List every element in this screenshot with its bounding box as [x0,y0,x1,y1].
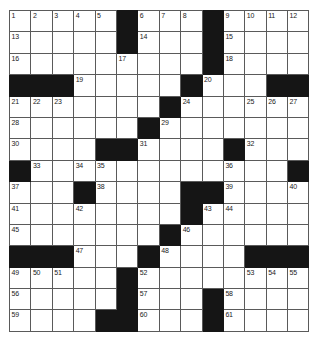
crossword-cell[interactable] [74,310,95,331]
crossword-cell[interactable] [52,310,73,331]
crossword-cell[interactable] [116,117,137,138]
crossword-cell[interactable] [223,117,244,138]
crossword-cell[interactable]: 13 [10,32,31,53]
crossword-cell[interactable] [52,32,73,53]
crossword-cell[interactable] [95,96,116,117]
crossword-cell[interactable] [116,160,137,181]
crossword-cell[interactable] [52,139,73,160]
crossword-cell[interactable]: 22 [31,96,52,117]
crossword-cell[interactable] [266,289,287,310]
crossword-cell[interactable]: 48 [159,246,180,267]
crossword-cell[interactable] [31,117,52,138]
crossword-cell[interactable] [245,289,266,310]
crossword-cell[interactable] [245,224,266,245]
crossword-cell[interactable]: 45 [10,224,31,245]
crossword-cell[interactable] [52,203,73,224]
crossword-cell[interactable]: 26 [266,96,287,117]
crossword-cell[interactable] [223,267,244,288]
crossword-cell[interactable] [181,53,202,74]
crossword-cell[interactable]: 24 [181,96,202,117]
crossword-cell[interactable] [116,224,137,245]
crossword-cell[interactable] [202,160,223,181]
crossword-cell[interactable]: 7 [159,11,180,32]
crossword-cell[interactable]: 10 [245,11,266,32]
crossword-cell[interactable] [31,139,52,160]
crossword-cell[interactable] [116,203,137,224]
crossword-cell[interactable]: 23 [52,96,73,117]
crossword-cell[interactable] [159,289,180,310]
crossword-cell[interactable]: 39 [223,182,244,203]
crossword-cell[interactable] [266,182,287,203]
crossword-cell[interactable]: 12 [288,11,309,32]
crossword-cell[interactable]: 38 [95,182,116,203]
crossword-cell[interactable] [74,289,95,310]
crossword-cell[interactable]: 8 [181,11,202,32]
crossword-cell[interactable] [116,75,137,96]
crossword-cell[interactable] [95,53,116,74]
crossword-cell[interactable] [245,75,266,96]
crossword-cell[interactable] [202,117,223,138]
crossword-cell[interactable]: 17 [116,53,137,74]
crossword-cell[interactable]: 15 [223,32,244,53]
crossword-cell[interactable]: 47 [74,246,95,267]
crossword-cell[interactable]: 34 [74,160,95,181]
crossword-cell[interactable] [159,75,180,96]
crossword-cell[interactable] [31,32,52,53]
crossword-grid[interactable]: 1234567891011121314151617181920212223242… [9,10,309,332]
crossword-cell[interactable]: 33 [31,160,52,181]
crossword-cell[interactable]: 29 [159,117,180,138]
crossword-cell[interactable]: 61 [223,310,244,331]
crossword-cell[interactable]: 18 [223,53,244,74]
crossword-cell[interactable] [181,310,202,331]
crossword-cell[interactable]: 2 [31,11,52,32]
crossword-cell[interactable]: 6 [138,11,159,32]
crossword-cell[interactable] [202,224,223,245]
crossword-cell[interactable] [138,203,159,224]
crossword-cell[interactable] [288,310,309,331]
crossword-cell[interactable] [159,160,180,181]
crossword-cell[interactable] [31,53,52,74]
crossword-cell[interactable]: 43 [202,203,223,224]
crossword-cell[interactable]: 50 [31,267,52,288]
crossword-cell[interactable] [95,289,116,310]
crossword-cell[interactable] [288,139,309,160]
crossword-cell[interactable] [95,246,116,267]
crossword-cell[interactable] [288,203,309,224]
crossword-cell[interactable] [116,182,137,203]
crossword-cell[interactable] [116,246,137,267]
crossword-cell[interactable] [266,160,287,181]
crossword-cell[interactable] [245,310,266,331]
crossword-cell[interactable] [288,289,309,310]
crossword-cell[interactable]: 37 [10,182,31,203]
crossword-cell[interactable]: 3 [52,11,73,32]
crossword-cell[interactable]: 36 [223,160,244,181]
crossword-cell[interactable] [138,53,159,74]
crossword-cell[interactable]: 49 [10,267,31,288]
crossword-cell[interactable]: 4 [74,11,95,32]
crossword-cell[interactable] [52,182,73,203]
crossword-cell[interactable]: 35 [95,160,116,181]
crossword-cell[interactable] [181,246,202,267]
crossword-cell[interactable] [52,160,73,181]
crossword-cell[interactable] [202,139,223,160]
crossword-cell[interactable] [31,224,52,245]
crossword-cell[interactable] [95,203,116,224]
crossword-cell[interactable]: 28 [10,117,31,138]
crossword-cell[interactable]: 59 [10,310,31,331]
crossword-cell[interactable] [159,139,180,160]
crossword-cell[interactable] [202,96,223,117]
crossword-cell[interactable] [223,224,244,245]
crossword-cell[interactable] [31,289,52,310]
crossword-cell[interactable] [95,224,116,245]
crossword-cell[interactable] [288,53,309,74]
crossword-cell[interactable]: 40 [288,182,309,203]
crossword-cell[interactable] [266,310,287,331]
crossword-cell[interactable] [288,224,309,245]
crossword-cell[interactable]: 27 [288,96,309,117]
crossword-cell[interactable]: 16 [10,53,31,74]
crossword-cell[interactable] [266,53,287,74]
crossword-cell[interactable] [138,75,159,96]
crossword-cell[interactable] [181,267,202,288]
crossword-cell[interactable]: 25 [245,96,266,117]
crossword-cell[interactable] [266,203,287,224]
